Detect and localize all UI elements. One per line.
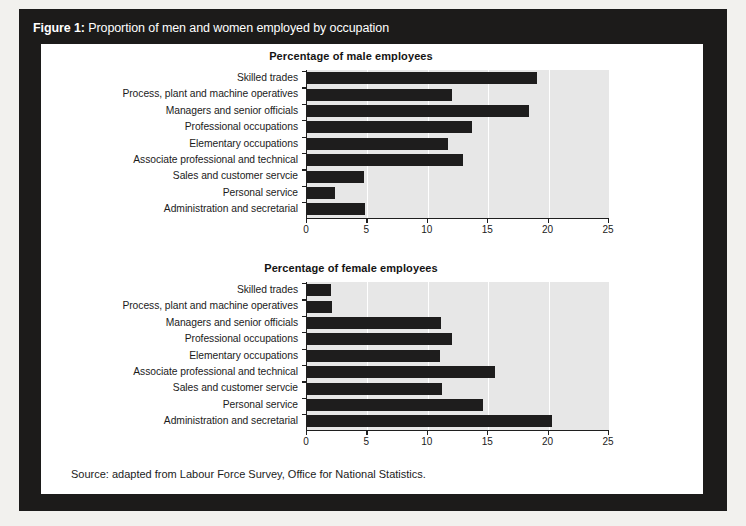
x-axis-tick bbox=[548, 218, 549, 223]
category-label: Managers and senior officials bbox=[41, 315, 304, 331]
bar-row bbox=[307, 331, 609, 347]
y-axis-tick bbox=[302, 316, 307, 317]
y-axis-tick bbox=[302, 71, 307, 72]
bar bbox=[307, 301, 332, 313]
bar-row bbox=[307, 136, 609, 152]
x-axis-tick bbox=[548, 430, 549, 435]
y-axis-tick bbox=[302, 299, 307, 300]
bar-row bbox=[307, 70, 609, 86]
category-label: Professional occupations bbox=[41, 119, 304, 135]
category-label: Professional occupations bbox=[41, 331, 304, 347]
x-axis-tick bbox=[487, 430, 488, 435]
bar-row bbox=[307, 413, 609, 429]
chart-male-title: Percentage of male employees bbox=[41, 50, 661, 62]
x-axis-tick bbox=[366, 218, 367, 223]
bar-row bbox=[307, 282, 609, 298]
x-axis-tick-label: 25 bbox=[602, 436, 613, 447]
bar bbox=[307, 203, 365, 215]
bar-row bbox=[307, 201, 609, 217]
bar-row bbox=[307, 86, 609, 102]
chart-male-category-labels: Skilled tradesProcess, plant and machine… bbox=[41, 70, 304, 218]
x-axis-tick-label: 15 bbox=[482, 436, 493, 447]
chart-male-plot-panel bbox=[306, 70, 609, 218]
bar bbox=[307, 89, 452, 101]
y-axis-tick bbox=[302, 332, 307, 333]
category-label: Sales and customer servcie bbox=[41, 380, 304, 396]
category-label: Administration and secretarial bbox=[41, 201, 304, 217]
chart-male-employees: Percentage of male employees Skilled tra… bbox=[41, 50, 703, 265]
y-axis-tick bbox=[302, 87, 307, 88]
x-axis-tick-label: 10 bbox=[421, 436, 432, 447]
bar-row bbox=[307, 364, 609, 380]
source-note: Source: adapted from Labour Force Survey… bbox=[71, 468, 426, 480]
y-axis-tick bbox=[302, 202, 307, 203]
bar bbox=[307, 138, 448, 150]
y-axis-tick bbox=[302, 381, 307, 382]
bar-row bbox=[307, 119, 609, 135]
bar bbox=[307, 72, 537, 84]
category-label: Associate professional and technical bbox=[41, 364, 304, 380]
bar bbox=[307, 383, 442, 395]
bar bbox=[307, 187, 335, 199]
bar bbox=[307, 121, 472, 133]
y-axis-tick bbox=[302, 137, 307, 138]
x-axis-tick bbox=[427, 430, 428, 435]
y-axis-tick bbox=[302, 169, 307, 170]
y-axis-tick bbox=[302, 349, 307, 350]
x-axis-tick bbox=[608, 430, 609, 435]
bar bbox=[307, 154, 463, 166]
category-label: Sales and customer servcie bbox=[41, 168, 304, 184]
bar-row bbox=[307, 315, 609, 331]
y-axis-tick bbox=[302, 414, 307, 415]
figure-frame: Figure 1: Proportion of men and women em… bbox=[19, 9, 727, 511]
bar bbox=[307, 399, 483, 411]
x-axis-tick bbox=[427, 218, 428, 223]
bar-row bbox=[307, 185, 609, 201]
x-axis-tick-label: 0 bbox=[303, 436, 309, 447]
bar-row bbox=[307, 397, 609, 413]
bar bbox=[307, 284, 331, 296]
figure-caption: Figure 1: Proportion of men and women em… bbox=[33, 18, 703, 38]
x-axis-tick bbox=[487, 218, 488, 223]
bar bbox=[307, 317, 441, 329]
chart-female-title: Percentage of female employees bbox=[41, 262, 661, 274]
category-label: Process, plant and machine operatives bbox=[41, 298, 304, 314]
category-label: Skilled trades bbox=[41, 282, 304, 298]
x-axis-tick-label: 5 bbox=[364, 224, 370, 235]
x-axis-tick bbox=[608, 218, 609, 223]
category-label: Elementary occupations bbox=[41, 348, 304, 364]
bar bbox=[307, 333, 452, 345]
bar bbox=[307, 171, 364, 183]
figure-card: Percentage of male employees Skilled tra… bbox=[41, 44, 703, 494]
figure-title: Proportion of men and women employed by … bbox=[88, 21, 389, 35]
category-label: Personal service bbox=[41, 185, 304, 201]
chart-female-plot-panel bbox=[306, 282, 609, 430]
gridline-25 bbox=[609, 282, 610, 430]
x-axis-tick bbox=[306, 218, 307, 223]
x-axis-tick-label: 20 bbox=[542, 224, 553, 235]
y-axis-tick bbox=[302, 365, 307, 366]
bar bbox=[307, 350, 440, 362]
x-axis-tick-label: 10 bbox=[421, 224, 432, 235]
x-axis-tick bbox=[366, 430, 367, 435]
category-label: Administration and secretarial bbox=[41, 413, 304, 429]
bar-row bbox=[307, 380, 609, 396]
bar bbox=[307, 366, 495, 378]
category-label: Associate professional and technical bbox=[41, 152, 304, 168]
y-axis-tick bbox=[302, 186, 307, 187]
bar-row bbox=[307, 103, 609, 119]
y-axis-tick bbox=[302, 398, 307, 399]
bar-row bbox=[307, 298, 609, 314]
bar bbox=[307, 415, 552, 427]
category-label: Process, plant and machine operatives bbox=[41, 86, 304, 102]
y-axis-tick bbox=[302, 283, 307, 284]
bar bbox=[307, 105, 529, 117]
chart-female-category-labels: Skilled tradesProcess, plant and machine… bbox=[41, 282, 304, 430]
x-axis-tick-label: 20 bbox=[542, 436, 553, 447]
category-label: Skilled trades bbox=[41, 70, 304, 86]
x-axis-tick-label: 5 bbox=[364, 436, 370, 447]
category-label: Elementary occupations bbox=[41, 136, 304, 152]
y-axis-tick bbox=[302, 120, 307, 121]
bar-row bbox=[307, 152, 609, 168]
x-axis-tick bbox=[306, 430, 307, 435]
